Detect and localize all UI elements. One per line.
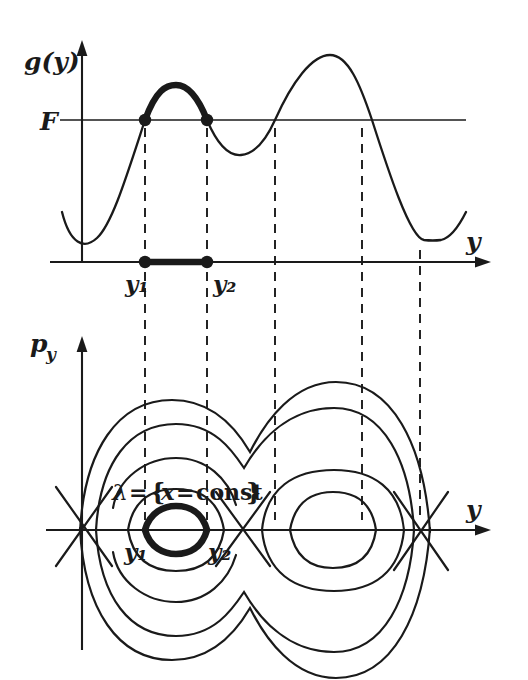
lambda-annotation-brace-close: }	[246, 478, 261, 507]
lower-root-label-y1: y₁	[123, 538, 147, 565]
intersection-dot-y2	[201, 114, 213, 126]
intersection-dot-y1	[139, 114, 151, 126]
lambda-annotation-equals-2: =	[176, 479, 194, 505]
lower-y-axis-label-subscript: y	[45, 344, 57, 364]
g-curve-highlighted-arc	[145, 85, 207, 120]
lambda-annotation-lambda: λ	[111, 478, 128, 505]
lower-panel: p y y λ = { x = const } y₁ y₂	[30, 329, 491, 678]
upper-y-axis-label: g(y)	[24, 47, 80, 76]
physics-figure-svg: g(y) F y y₁ y₂	[0, 0, 528, 680]
orbit-double-lobe-2-upper	[80, 382, 430, 532]
lambda-annotation: λ = { x = const }	[111, 478, 263, 507]
lower-py-axis-label-group: p y	[30, 329, 57, 364]
baseline-dot-y1	[139, 256, 151, 268]
upper-root-label-y1: y₁	[124, 270, 148, 297]
lower-vertical-axis	[77, 336, 88, 650]
lambda-annotation-x: x	[160, 478, 175, 505]
upper-horizontal-axis	[50, 256, 491, 267]
lambda-annotation-equals-1: =	[129, 479, 147, 505]
dashed-guide-lines	[145, 128, 420, 520]
upper-panel: g(y) F y y₁ y₂	[24, 40, 491, 297]
g-of-y-curve	[62, 55, 466, 244]
lower-root-label-y2: y₂	[207, 538, 231, 565]
figure-root: g(y) F y y₁ y₂	[0, 0, 528, 680]
upper-root-label-y2: y₂	[212, 270, 236, 297]
lower-x-axis-label: y	[465, 495, 482, 524]
level-label-F: F	[39, 107, 60, 136]
baseline-dot-y2	[201, 256, 213, 268]
upper-x-axis-label: y	[465, 227, 482, 256]
